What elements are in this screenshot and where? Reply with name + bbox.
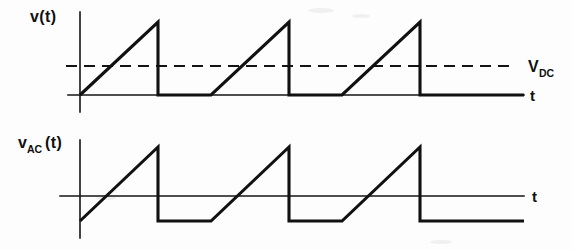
vt-waveform bbox=[80, 22, 524, 95]
vac-time-axis-label: t bbox=[532, 188, 537, 205]
vt-axis-label: v(t) bbox=[30, 8, 56, 25]
vac-axis-label-main: v bbox=[18, 134, 27, 151]
waveform-svg: v(t) V DC t v AC (t) t bbox=[0, 0, 572, 250]
vac-axis-label-subscript: AC bbox=[27, 143, 43, 155]
vdc-label-main: V bbox=[528, 58, 539, 75]
vac-waveform bbox=[80, 147, 524, 221]
waveform-figure: v(t) V DC t v AC (t) t bbox=[0, 0, 572, 250]
vac-axis-label-tail: (t) bbox=[45, 134, 62, 151]
vdc-label-subscript: DC bbox=[539, 67, 555, 79]
vt-time-axis-label: t bbox=[530, 87, 535, 104]
panel-vt: v(t) V DC t bbox=[30, 8, 555, 112]
panel-vac: v AC (t) t bbox=[18, 134, 537, 238]
